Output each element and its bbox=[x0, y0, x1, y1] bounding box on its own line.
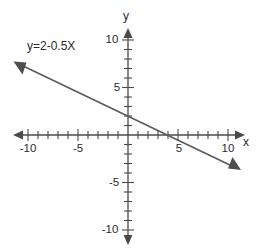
data-line-segment bbox=[20, 65, 233, 167]
x-axis-group bbox=[13, 129, 245, 141]
x-tick-label-pos-ten: 10 bbox=[222, 143, 235, 155]
x-tick-label-neg-five: -5 bbox=[73, 143, 83, 155]
x-axis-title: x bbox=[243, 136, 249, 148]
equation-label: y=2-0.5X bbox=[27, 40, 75, 52]
y-tick-label-neg-ten: -10 bbox=[102, 224, 119, 236]
x-tick-label-pos-five: 5 bbox=[176, 143, 182, 155]
y-axis-top-arrow-icon bbox=[124, 28, 133, 38]
y-tick-label-neg-five: -5 bbox=[109, 177, 119, 189]
coordinate-plot-svg bbox=[0, 0, 263, 251]
data-line-left-arrow-icon bbox=[14, 62, 27, 75]
x-axis-left-arrow-icon bbox=[13, 131, 23, 140]
y-axis-title: y bbox=[123, 10, 129, 22]
y-axis-group bbox=[122, 28, 134, 245]
cartesian-plane-figure: y=2-0.5X y x -10 -5 5 10 10 5 -5 -10 bbox=[0, 0, 263, 251]
y-axis-bottom-arrow-icon bbox=[124, 235, 133, 245]
data-line-right-arrow-icon bbox=[228, 157, 241, 170]
y-tick-label-pos-five: 5 bbox=[114, 82, 120, 94]
x-tick-label-neg-ten: -10 bbox=[20, 143, 37, 155]
y-tick-label-pos-ten: 10 bbox=[106, 34, 119, 46]
